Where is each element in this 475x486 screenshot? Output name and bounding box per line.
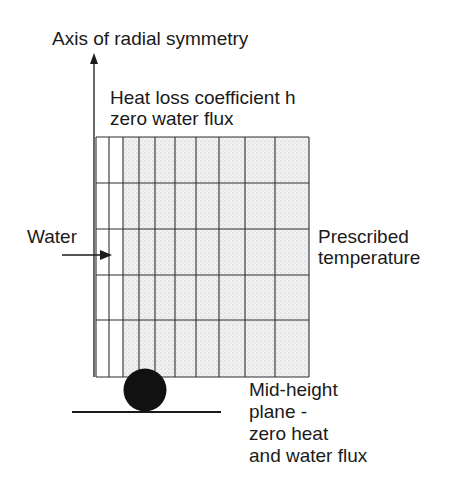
axis-label: Axis of radial symmetry — [52, 28, 248, 50]
bottom-boundary-label-line3: zero heat — [249, 423, 328, 445]
right-boundary-label-line1: Prescribed — [318, 226, 409, 248]
bottom-boundary-label-line4: and water flux — [249, 445, 367, 467]
bottom-boundary-label-line1: Mid-height — [249, 379, 338, 401]
right-boundary-label-line2: temperature — [318, 247, 420, 269]
bottom-boundary-label-line2: plane - — [249, 401, 307, 423]
water-inflow-label: Water — [27, 226, 77, 248]
symmetry-axis-arrow-icon — [90, 53, 98, 377]
specimen-circle-icon — [124, 369, 167, 412]
mesh-shaded-region — [123, 137, 309, 377]
top-boundary-label-line2: zero water flux — [110, 108, 234, 130]
top-boundary-label-line1: Heat loss coefficient h — [110, 87, 296, 109]
water-inflow-arrow-icon — [62, 250, 112, 260]
